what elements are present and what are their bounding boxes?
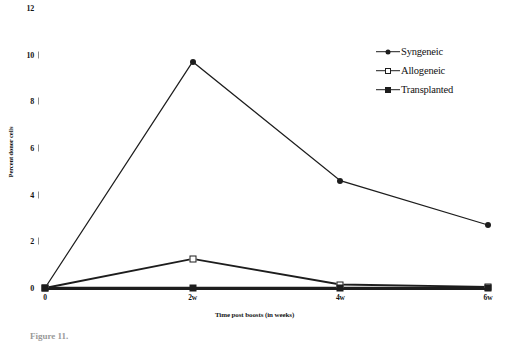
y-tick-label: 8 — [4, 97, 34, 106]
x-tick-label: 0 — [43, 293, 47, 302]
chart-figure: Percent donor cells 024681012 02w4w6w Ti… — [0, 0, 509, 341]
legend-label: Transplanted — [400, 84, 453, 95]
x-tick-label: 4w — [336, 293, 345, 302]
data-point — [190, 59, 196, 65]
y-tick-mark — [38, 51, 39, 58]
legend-label: Allogeneic — [400, 65, 445, 76]
y-tick-label: 12 — [4, 4, 34, 13]
y-tick-mark — [38, 98, 39, 105]
figure-caption: Figure 11. — [30, 331, 495, 341]
y-tick-label: 2 — [4, 237, 34, 246]
x-axis-line — [45, 288, 489, 290]
legend-marker-open-square-icon — [376, 65, 400, 77]
legend-marker-filled-circle-icon — [376, 46, 400, 58]
legend-item: Syngeneic — [376, 42, 509, 61]
legend-marker-filled-square-icon — [376, 84, 400, 96]
x-tick-label: 6w — [484, 293, 493, 302]
legend-item: Transplanted — [376, 80, 509, 99]
x-axis-title: Time post boosts (in weeks) — [0, 311, 509, 319]
data-point — [337, 178, 343, 184]
series-line — [45, 259, 488, 288]
data-point — [485, 222, 491, 228]
figure-caption-text: Figure 11. — [30, 331, 68, 341]
y-tick-label: 10 — [4, 50, 34, 59]
legend-label: Syngeneic — [400, 46, 443, 57]
y-tick-label: 6 — [4, 144, 34, 153]
data-point — [189, 255, 196, 262]
legend-item: Allogeneic — [376, 61, 509, 80]
y-tick-mark — [38, 191, 39, 198]
y-tick-mark — [38, 145, 39, 152]
y-tick-label: 0 — [4, 284, 34, 293]
y-tick-label: 4 — [4, 190, 34, 199]
chart-legend: SyngeneicAllogeneicTransplanted — [376, 42, 509, 99]
y-tick-mark — [38, 238, 39, 245]
x-tick-label: 2w — [188, 293, 197, 302]
